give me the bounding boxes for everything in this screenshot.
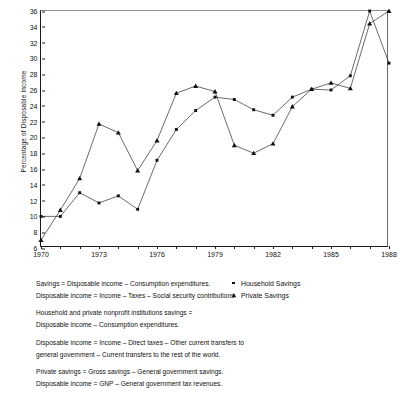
chart-notes: Savings = Disposable income – Consumptio… (36, 278, 242, 390)
series-lines (41, 11, 389, 248)
y-axis-tick-label: 26 (30, 87, 41, 94)
data-point (155, 138, 160, 142)
note-line: Household and private nonprofit institut… (36, 307, 242, 319)
data-point (233, 98, 236, 101)
chart-legend: Household SavingsPrivate Savings (228, 277, 300, 301)
data-point (272, 114, 275, 117)
y-axis-tick-label: 12 (30, 197, 41, 204)
data-point (77, 176, 82, 180)
y-axis-tick-label: 34 (30, 23, 41, 30)
data-point (271, 141, 276, 145)
x-axis-tick-mark (99, 246, 100, 249)
note-line: Disposable income – Consumption expendit… (36, 319, 242, 331)
data-point (387, 9, 392, 13)
legend-item[interactable]: Private Savings (228, 289, 300, 301)
marker-glyph (232, 293, 236, 297)
note-line: Disposable income = Income – Taxes – Soc… (36, 290, 242, 302)
note-paragraph: Private savings = Gross savings – Genera… (36, 366, 242, 389)
data-point (117, 194, 120, 197)
x-axis-tick-label: 1976 (149, 251, 165, 258)
y-axis-tick-label: 16 (30, 166, 41, 173)
data-point (251, 151, 256, 155)
x-axis-tick-mark (331, 246, 332, 249)
x-axis-tick-mark (138, 246, 139, 249)
note-line: general government – Current transfers t… (36, 349, 242, 361)
x-axis-tick-mark (234, 246, 235, 249)
x-axis-tick-label: 1985 (323, 251, 339, 258)
note-paragraph: Disposable income = Income – Direct taxe… (36, 337, 242, 360)
x-axis-tick-mark (157, 246, 158, 249)
data-point (252, 108, 255, 111)
data-point (368, 10, 371, 13)
x-axis-tick-mark (254, 246, 255, 249)
data-point (329, 80, 334, 84)
data-point (349, 74, 352, 77)
x-axis-tick-mark (370, 246, 371, 249)
y-axis-title: Percentage of Disposable Income (20, 37, 27, 207)
y-axis-tick-label: 10 (30, 213, 41, 220)
marker-glyph (232, 282, 235, 285)
data-point (136, 208, 139, 211)
x-axis-tick-mark (80, 246, 81, 249)
x-axis-tick-mark (273, 246, 274, 249)
legend-item[interactable]: Household Savings (228, 277, 300, 289)
x-axis-tick-mark (350, 246, 351, 249)
note-line: Savings = Disposable income – Consumptio… (36, 278, 242, 290)
x-axis-tick-label: 1979 (207, 251, 223, 258)
plot-region: 6810121416182022242628303234361970197319… (40, 10, 388, 247)
y-axis-tick-label: 30 (30, 55, 41, 62)
note-line: Disposable income = GNP – General govern… (36, 378, 242, 390)
y-axis-tick-label: 8 (34, 229, 41, 236)
data-point (98, 202, 101, 205)
x-axis-tick-mark (292, 246, 293, 249)
data-point (39, 238, 44, 242)
data-point (291, 96, 294, 99)
y-axis-tick-label: 32 (30, 39, 41, 46)
x-axis-tick-mark (41, 246, 42, 249)
data-point (367, 21, 372, 25)
note-paragraph: Savings = Disposable income – Consumptio… (36, 278, 242, 301)
triangle-marker-icon (228, 293, 239, 297)
data-point (78, 191, 81, 194)
x-axis-tick-mark (118, 246, 119, 249)
data-point (214, 96, 217, 99)
data-point (232, 143, 237, 147)
data-point (156, 159, 159, 162)
data-point (388, 62, 391, 65)
data-point (97, 121, 102, 125)
data-point (193, 84, 198, 88)
y-axis-tick-label: 14 (30, 181, 41, 188)
y-axis-tick-label: 24 (30, 102, 41, 109)
data-point (59, 215, 62, 218)
x-axis-tick-mark (312, 246, 313, 249)
chart-area: Percentage of Disposable Income 68101214… (0, 0, 406, 262)
data-point (194, 109, 197, 112)
x-axis-tick-mark (176, 246, 177, 249)
note-line: Private savings = Gross savings – Genera… (36, 366, 242, 378)
note-paragraph: Household and private nonprofit institut… (36, 307, 242, 330)
x-axis-tick-label: 1970 (33, 251, 49, 258)
note-line: Disposable income = Income – Direct taxe… (36, 337, 242, 349)
data-point (330, 89, 333, 92)
y-axis-tick-label: 18 (30, 150, 41, 157)
square-marker-icon (228, 282, 239, 285)
x-axis-tick-mark (215, 246, 216, 249)
x-axis-tick-mark (389, 246, 390, 249)
data-point (175, 128, 178, 131)
data-point (116, 130, 121, 134)
data-point (135, 168, 140, 172)
y-axis-tick-label: 22 (30, 118, 41, 125)
y-axis-tick-label: 36 (30, 8, 41, 15)
y-axis-tick-label: 20 (30, 134, 41, 141)
savings-chart-figure: Percentage of Disposable Income 68101214… (0, 0, 406, 395)
y-axis-tick-label: 28 (30, 71, 41, 78)
legend-label: Household Savings (239, 280, 300, 287)
x-axis-tick-mark (60, 246, 61, 249)
legend-label: Private Savings (239, 292, 289, 299)
data-point (58, 208, 63, 212)
series-line-private-savings (41, 11, 389, 240)
x-axis-tick-mark (196, 246, 197, 249)
x-axis-tick-label: 1973 (91, 251, 107, 258)
series-line-household-savings (41, 11, 389, 216)
x-axis-tick-label: 1982 (265, 251, 281, 258)
